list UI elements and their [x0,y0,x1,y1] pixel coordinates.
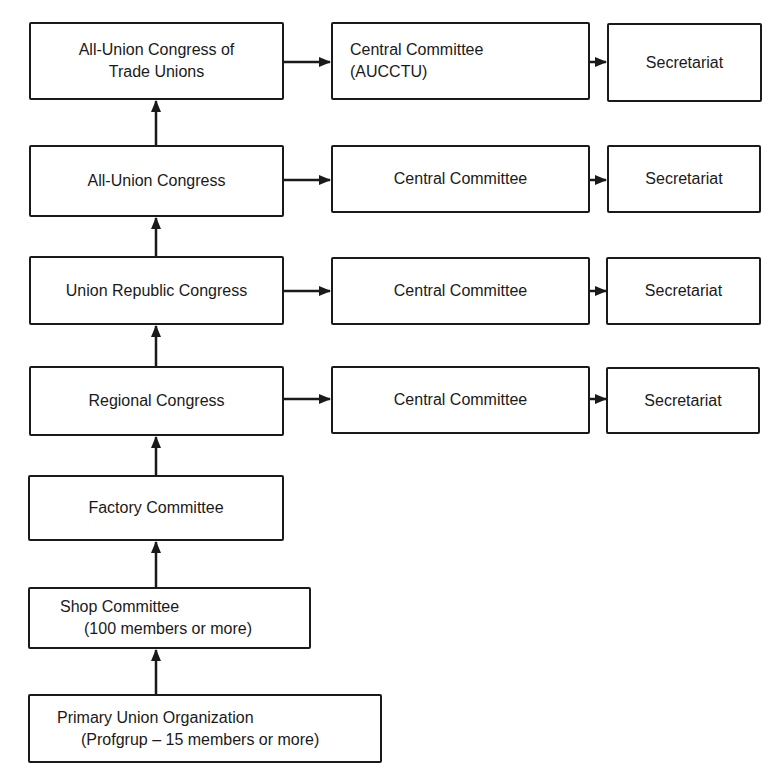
box-label-line: Secretariat [644,390,721,412]
box-label-line: Union Republic Congress [66,280,247,302]
box-shop-committee: Shop Committee (100 members or more) [28,587,311,649]
box-regional-congress: Regional Congress [29,366,284,436]
box-union-republic-congress: Union Republic Congress [29,256,284,325]
box-label-line: Secretariat [645,168,722,190]
box-label-line: Secretariat [645,280,722,302]
box-label-line: Regional Congress [88,390,224,412]
box-all-union-congress: All-Union Congress [29,145,284,217]
box-secretariat-union-republic: Secretariat [606,257,761,325]
box-label-line: Central Committee [394,389,527,411]
box-label-line: (100 members or more) [60,618,252,640]
box-label-line: (AUCCTU) [350,61,427,83]
box-secretariat-regional: Secretariat [606,367,760,434]
box-label-line: Trade Unions [109,61,204,83]
box-central-committee-all-union: Central Committee [331,145,590,213]
box-central-committee-aucctu: Central Committee (AUCCTU) [331,22,590,100]
box-label-line: Secretariat [646,52,723,74]
box-secretariat-aucctu: Secretariat [607,23,762,102]
box-central-committee-union-republic: Central Committee [331,257,590,325]
box-secretariat-all-union: Secretariat [607,145,761,213]
box-label-line: Factory Committee [88,497,223,519]
box-aucctu-congress: All-Union Congress of Trade Unions [29,22,284,100]
box-label-line: Shop Committee [60,596,179,618]
box-label-line: (Profgrup – 15 members or more) [57,729,319,751]
box-central-committee-regional: Central Committee [331,366,590,434]
box-label-line: Primary Union Organization [57,707,254,729]
box-label-line: Central Committee [394,168,527,190]
box-label-line: All-Union Congress [88,170,226,192]
box-factory-committee: Factory Committee [28,475,284,541]
box-primary-union-organization: Primary Union Organization (Profgrup – 1… [28,694,382,763]
box-label-line: All-Union Congress of [79,39,235,61]
box-label-line: Central Committee [394,280,527,302]
box-label-line: Central Committee [350,39,483,61]
